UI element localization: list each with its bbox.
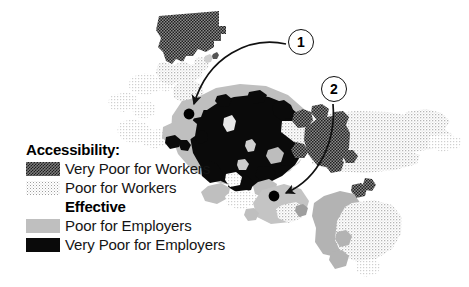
legend-swatch-very-poor-employers <box>26 238 60 252</box>
legend-item-poor-employers: Poor for Employers <box>26 216 241 235</box>
legend-heading-accessibility: Accessibility: <box>26 140 241 159</box>
callout-label-1: 1 <box>297 34 305 50</box>
legend-swatch-very-poor-workers <box>26 162 60 176</box>
map-legend: Accessibility: Very Poor for Workers Poo… <box>26 140 241 254</box>
marker-dot-2 <box>269 191 280 202</box>
legend-label-poor-workers: Poor for Workers <box>65 178 177 197</box>
legend-label-poor-employers: Poor for Employers <box>65 216 192 235</box>
callout-label-2: 2 <box>330 81 338 97</box>
marker-dot-1 <box>184 109 195 120</box>
legend-heading-effective: Effective <box>65 197 241 216</box>
legend-item-very-poor-workers: Very Poor for Workers <box>26 159 241 178</box>
callout-badge-1[interactable]: 1 <box>288 29 314 55</box>
legend-swatch-poor-workers <box>26 181 60 195</box>
legend-item-poor-workers: Poor for Workers <box>26 178 241 197</box>
figure-root: 1 2 Accessibility: Very Poor for Workers… <box>0 0 469 287</box>
callout-badge-2[interactable]: 2 <box>321 76 347 102</box>
legend-item-very-poor-employers: Very Poor for Employers <box>26 235 241 254</box>
legend-label-very-poor-workers: Very Poor for Workers <box>65 159 210 178</box>
legend-label-very-poor-employers: Very Poor for Employers <box>65 235 225 254</box>
region-far-southeast-blob <box>312 191 402 277</box>
legend-swatch-poor-employers <box>26 219 60 233</box>
